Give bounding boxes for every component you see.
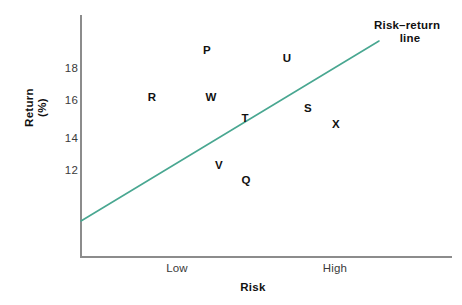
- x-tick-label-low: Low: [147, 262, 207, 274]
- data-point-S: S: [300, 102, 316, 114]
- y-tick-label-18: 18: [56, 62, 78, 74]
- risk-return-trend-line: [0, 0, 462, 305]
- y-axis-unit-text: (%): [35, 68, 48, 148]
- data-point-T: T: [237, 112, 253, 124]
- trend-line-annotation-line2: line: [374, 32, 460, 45]
- y-axis-title-text: Return: [23, 88, 35, 127]
- y-tick-label-12: 12: [56, 164, 78, 176]
- data-point-X: X: [328, 118, 344, 130]
- risk-return-scatter-chart: 18 16 14 12 Return (%) Low High Risk P U…: [0, 0, 462, 305]
- trend-line-annotation: Risk–return line: [374, 19, 460, 44]
- data-point-P: P: [199, 44, 215, 56]
- x-axis-title: Risk: [213, 281, 293, 293]
- x-tick-label-high: High: [305, 262, 365, 274]
- y-axis-title: Return (%): [23, 68, 48, 148]
- y-tick-label-14: 14: [56, 132, 78, 144]
- data-point-W: W: [203, 91, 219, 103]
- trend-line-annotation-line1: Risk–return: [374, 19, 460, 32]
- data-point-Q: Q: [238, 174, 254, 186]
- data-point-U: U: [279, 52, 295, 64]
- data-point-R: R: [144, 91, 160, 103]
- y-tick-label-16: 16: [56, 94, 78, 106]
- data-point-V: V: [211, 159, 227, 171]
